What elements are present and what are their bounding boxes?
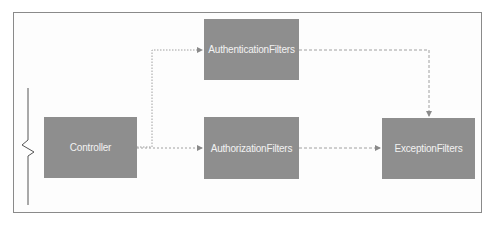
edge-authentication-exception	[299, 50, 429, 116]
node-authentication-filters: AuthenticationFilters	[204, 19, 299, 80]
node-authorization-filters: AuthorizationFilters	[204, 117, 299, 179]
node-label: Controller	[70, 142, 111, 153]
node-controller: Controller	[44, 117, 137, 178]
node-exception-filters: ExceptionFilters	[382, 118, 475, 179]
node-label: AuthorizationFilters	[211, 143, 293, 154]
edge-controller-authentication	[137, 50, 202, 147]
break-line-icon	[22, 88, 34, 205]
node-label: AuthenticationFilters	[208, 44, 294, 55]
node-label: ExceptionFilters	[395, 143, 463, 154]
